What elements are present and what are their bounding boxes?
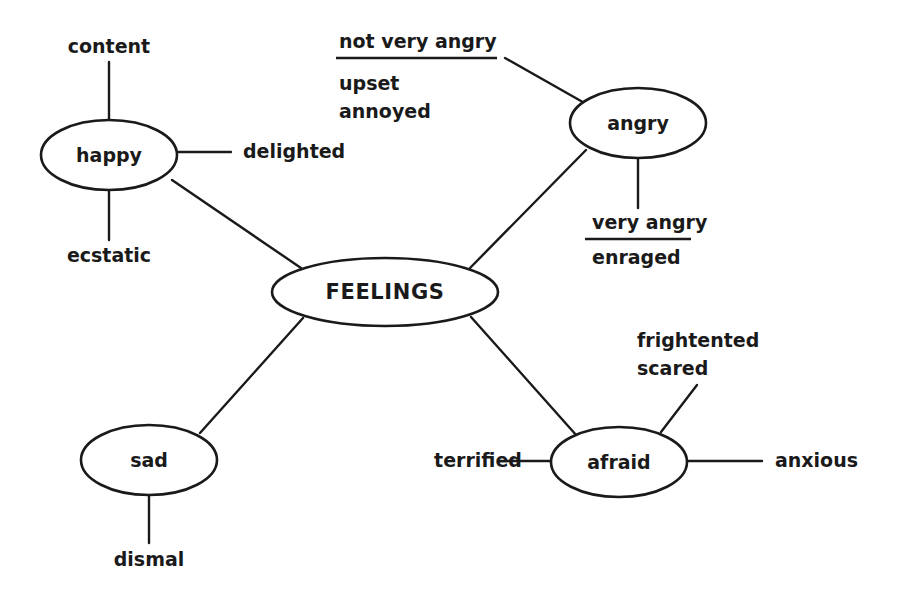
leaf-label-not-very-angry: not very angry bbox=[339, 30, 497, 52]
node-label-feelings: FEELINGS bbox=[326, 280, 445, 304]
mind-map-canvas: FEELINGShappyangrysadafraid contentecsta… bbox=[0, 0, 904, 599]
connector-line-feelings-angry bbox=[470, 150, 586, 268]
leaf-label-upset: upset bbox=[339, 72, 399, 94]
leaf-label-enraged: enraged bbox=[592, 246, 681, 268]
leaf-label-very-angry: very angry bbox=[592, 211, 708, 233]
branch-node-happy[interactable]: happy bbox=[41, 120, 177, 190]
leaf-label-content: content bbox=[68, 35, 150, 57]
connector-line-angry-notveryangry bbox=[505, 58, 588, 105]
leaf-label-anxious: anxious bbox=[775, 449, 858, 471]
leaf-label-terrified: terrified bbox=[434, 449, 522, 471]
leaf-label-ecstatic: ecstatic bbox=[67, 244, 151, 266]
central-node-feelings[interactable]: FEELINGS bbox=[272, 258, 498, 326]
connector-line-afraid-frightented bbox=[661, 385, 697, 432]
leaf-label-frightented: frightented bbox=[637, 329, 759, 351]
nodes-layer: FEELINGShappyangrysadafraid bbox=[41, 88, 706, 497]
branch-node-afraid[interactable]: afraid bbox=[551, 427, 687, 497]
node-label-happy: happy bbox=[76, 144, 143, 166]
connector-line-feelings-sad bbox=[200, 318, 303, 433]
feelings-mind-map: FEELINGShappyangrysadafraid contentecsta… bbox=[0, 0, 904, 599]
branch-node-sad[interactable]: sad bbox=[81, 425, 217, 495]
node-label-sad: sad bbox=[130, 449, 168, 471]
leaf-label-annoyed: annoyed bbox=[339, 100, 431, 122]
connector-line-feelings-happy bbox=[172, 180, 301, 268]
branch-node-angry[interactable]: angry bbox=[570, 88, 706, 158]
leaf-label-delighted: delighted bbox=[243, 140, 345, 162]
leaf-label-dismal: dismal bbox=[114, 548, 185, 570]
leaf-label-scared: scared bbox=[637, 357, 708, 379]
node-label-angry: angry bbox=[607, 112, 669, 134]
connector-line-feelings-afraid bbox=[471, 317, 577, 436]
node-label-afraid: afraid bbox=[587, 451, 650, 473]
